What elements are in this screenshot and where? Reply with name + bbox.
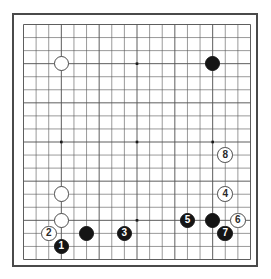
go-board[interactable]: 12345678	[12, 13, 258, 267]
move-stone-5[interactable]: 5	[180, 213, 196, 229]
white-stone-lower-left[interactable]	[54, 213, 70, 229]
white-stone-upper-left[interactable]	[54, 56, 70, 72]
move-stone-6[interactable]: 6	[230, 213, 246, 229]
move-number-label: 2	[46, 228, 52, 238]
move-number-label: 5	[185, 215, 191, 225]
move-stone-4[interactable]: 4	[217, 186, 233, 202]
move-number-label: 7	[222, 228, 228, 238]
black-stone-lower-left[interactable]	[79, 226, 95, 242]
move-stone-2[interactable]: 2	[41, 226, 57, 242]
move-number-label: 8	[222, 150, 228, 160]
move-number-label: 6	[235, 215, 241, 225]
go-diagram-root: 12345678	[0, 0, 271, 279]
black-stone-upper-right[interactable]	[205, 56, 221, 72]
move-stone-7[interactable]: 7	[217, 226, 233, 242]
move-stone-1[interactable]: 1	[54, 239, 70, 255]
stone-layer: 12345678	[14, 15, 260, 269]
move-number-label: 1	[59, 241, 65, 251]
move-stone-8[interactable]: 8	[217, 147, 233, 163]
white-stone-left-side[interactable]	[54, 186, 70, 202]
move-stone-3[interactable]: 3	[117, 226, 133, 242]
black-stone-bottom-right[interactable]	[205, 213, 221, 229]
move-number-label: 4	[222, 189, 228, 199]
move-number-label: 3	[122, 228, 128, 238]
